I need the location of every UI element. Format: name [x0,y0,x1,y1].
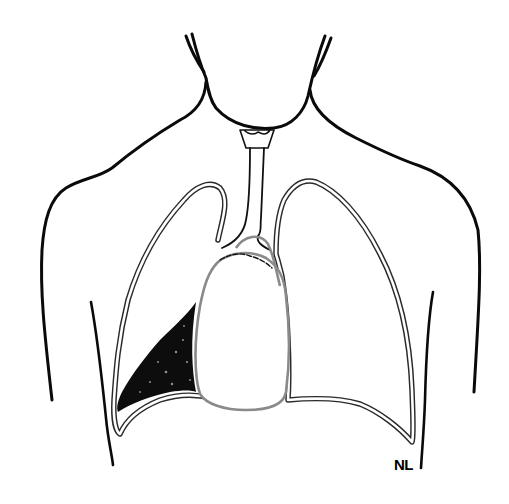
larynx [240,130,274,148]
shoulder-right [310,90,480,392]
lung-left-anatomical [276,181,413,442]
signature: NL [394,456,413,473]
chest-wall-right [421,292,433,468]
chest-wall-left [91,302,113,465]
neck-outline [186,34,331,128]
chest-diagram: NL [0,0,509,504]
heart [196,237,290,410]
trachea [222,148,270,250]
